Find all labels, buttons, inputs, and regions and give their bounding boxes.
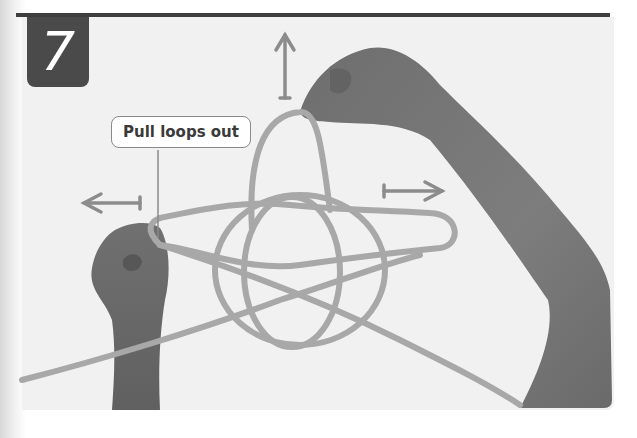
knot-illustration [0,0,637,438]
header-rule [16,13,610,17]
step-number: 7 [41,25,75,79]
arrow-right-icon [384,182,442,200]
callout-label-box: Pull loops out [111,116,251,148]
step-number-badge: 7 [27,17,89,87]
arrow-up-icon [276,35,294,98]
arrow-left-icon [84,194,140,212]
callout-text: Pull loops out [123,123,239,141]
left-hand [91,223,168,410]
